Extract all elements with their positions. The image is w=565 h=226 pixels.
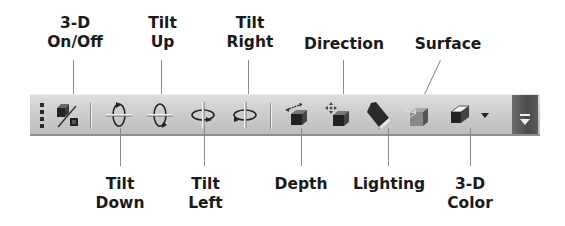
callout-lighting: Lighting (346, 175, 432, 194)
depth-button[interactable] (282, 100, 312, 130)
callout-line1: Lighting (346, 175, 432, 194)
callout-line2: Right (220, 33, 280, 52)
leader-line (120, 128, 121, 166)
3d-settings-toolbar (30, 94, 540, 136)
toolbar-options-button[interactable] (512, 95, 538, 134)
callout-depth: Depth (268, 175, 334, 194)
3d-color-icon (445, 100, 475, 130)
callout-line1: Tilt (178, 175, 233, 194)
3d-color-button[interactable] (445, 100, 475, 130)
leader-line (301, 128, 302, 166)
callout-tilt-left: Tilt Left (178, 175, 233, 213)
callout-line1: 3-D (440, 175, 500, 194)
leader-line (470, 128, 471, 166)
leader-line (388, 128, 389, 166)
callout-surface: Surface (408, 35, 488, 54)
surface-icon (403, 100, 433, 130)
leader-line (343, 60, 344, 98)
callout-line1: Tilt (135, 14, 190, 33)
tilt-left-button[interactable] (188, 100, 218, 130)
chevron-down-icon (478, 100, 494, 130)
drag-handle[interactable] (40, 103, 44, 129)
callout-line1: Tilt (90, 175, 150, 194)
callout-3d-on-off: 3-D On/Off (40, 14, 110, 52)
3d-on-off-button[interactable] (52, 100, 82, 130)
callout-line1: Tilt (220, 14, 280, 33)
depth-icon (282, 100, 312, 130)
toolbar-separator (270, 103, 271, 129)
3d-toggle-icon (52, 100, 82, 130)
leader-line (161, 60, 162, 98)
lighting-icon (363, 100, 393, 130)
toolbar-separator (90, 103, 91, 129)
callout-tilt-down: Tilt Down (90, 175, 150, 213)
callout-line2: Left (178, 194, 233, 213)
tilt-down-button[interactable] (104, 100, 134, 130)
callout-line1: Depth (268, 175, 334, 194)
3d-color-dropdown[interactable] (478, 100, 494, 130)
callout-line1: Direction (298, 35, 390, 54)
callout-line1: Surface (408, 35, 488, 54)
callout-tilt-right: Tilt Right (220, 14, 280, 52)
callout-direction: Direction (298, 35, 390, 54)
tilt-right-icon (230, 100, 260, 130)
tilt-down-icon (104, 100, 134, 130)
leader-line-diagonal (424, 60, 441, 95)
toolbar-options-icon (518, 113, 532, 127)
callout-tilt-up: Tilt Up (135, 14, 190, 52)
tilt-up-button[interactable] (145, 100, 175, 130)
surface-button[interactable] (403, 100, 433, 130)
callout-3d-color: 3-D Color (440, 175, 500, 213)
callout-line2: Color (440, 194, 500, 213)
direction-button[interactable] (323, 100, 353, 130)
leader-line (204, 128, 205, 166)
callout-line2: Down (90, 194, 150, 213)
callout-line2: On/Off (40, 33, 110, 52)
callout-line2: Up (135, 33, 190, 52)
tilt-up-icon (145, 100, 175, 130)
lighting-button[interactable] (363, 100, 393, 130)
callout-line1: 3-D (40, 14, 110, 33)
tilt-left-icon (188, 100, 218, 130)
tilt-right-button[interactable] (230, 100, 260, 130)
direction-icon (323, 100, 353, 130)
